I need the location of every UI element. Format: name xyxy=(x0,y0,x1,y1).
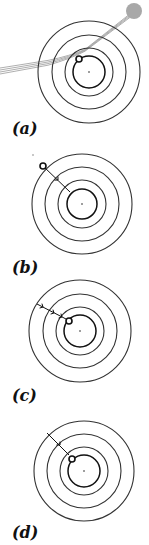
panel-d: (d) xyxy=(12,421,134,542)
nucleus-dot xyxy=(83,470,85,472)
stray-dot xyxy=(32,154,33,155)
nucleus-dot xyxy=(79,330,81,332)
panel-label-b: (b) xyxy=(12,258,38,277)
panel-label-d: (d) xyxy=(12,523,38,542)
transition-arrow xyxy=(37,304,66,319)
electron-marker xyxy=(69,456,75,462)
orbit-diagram-figure: (a)(b)(c)(d) xyxy=(0,0,149,545)
transition-arrow xyxy=(47,433,69,455)
electron-marker xyxy=(76,56,82,62)
panel-label-a: (a) xyxy=(12,119,38,138)
electron-marker xyxy=(66,318,72,324)
panel-label-c: (c) xyxy=(12,386,37,405)
panel-c: (c) xyxy=(12,280,131,405)
panel-a: (a) xyxy=(0,3,142,138)
transition-arrow xyxy=(43,166,70,192)
incoming-particle xyxy=(126,3,142,19)
nucleus-dot xyxy=(88,71,90,73)
panel-b: (b) xyxy=(12,154,132,277)
electron-marker xyxy=(40,163,46,169)
nucleus-dot xyxy=(81,203,83,205)
